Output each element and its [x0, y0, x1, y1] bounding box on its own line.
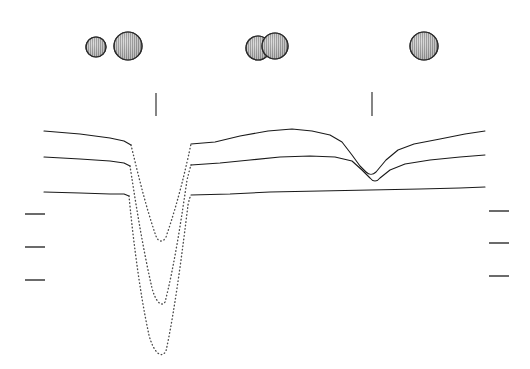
sphere-annotation-group: [86, 32, 438, 60]
sphere-large-left: [114, 32, 142, 60]
curve-middle-solid-left: [44, 157, 130, 166]
curve-middle-solid-right: [191, 155, 485, 181]
right-scale-tick-group: [489, 211, 509, 276]
curve-lower-solid-left: [44, 192, 129, 196]
curve-lower-solid-right: [191, 187, 485, 195]
sphere-right: [410, 32, 438, 60]
sphere-small-left: [86, 37, 106, 57]
sphere-small-left-shade: [86, 37, 106, 57]
curve-series-group: [44, 129, 485, 355]
sphere-large-left-shade: [114, 32, 142, 60]
sphere-right-of-pair-middle: [262, 33, 288, 59]
vertical-marker-tick-group: [156, 92, 372, 116]
curve-upper-dotted-dip: [131, 144, 191, 241]
figure-canvas: [0, 0, 530, 369]
sphere-right-shade: [410, 32, 438, 60]
curve-middle: [44, 155, 485, 304]
curve-upper-solid-right: [191, 129, 485, 174]
left-scale-tick-group: [25, 214, 45, 280]
scientific-figure-svg: [0, 0, 530, 369]
curve-upper-solid-left: [44, 131, 131, 145]
sphere-right-of-pair-middle-shade: [262, 33, 288, 59]
curve-upper: [44, 129, 485, 241]
curve-lower: [44, 187, 485, 355]
